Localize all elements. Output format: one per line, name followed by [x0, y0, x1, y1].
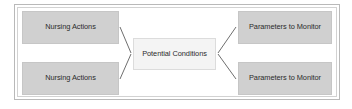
node-label: Parameters to Monitor [249, 23, 321, 31]
node-potential-conditions[interactable]: Potential Conditions [133, 38, 216, 70]
node-nursing-actions-top[interactable]: Nursing Actions [22, 11, 119, 44]
node-parameters-to-monitor-top[interactable]: Parameters to Monitor [238, 11, 332, 44]
connector-center-to-parameters-2 [218, 54, 236, 79]
node-label: Nursing Actions [45, 74, 96, 82]
node-label: Nursing Actions [45, 23, 96, 31]
node-label: Potential Conditions [142, 50, 207, 58]
diagram-canvas: Nursing Actions Nursing Actions Potentia… [0, 0, 352, 109]
connector-nursing-1-to-center [120, 27, 131, 53]
node-parameters-to-monitor-bottom[interactable]: Parameters to Monitor [238, 62, 332, 95]
diagram-page: Nursing Actions Nursing Actions Potentia… [0, 0, 352, 109]
node-nursing-actions-bottom[interactable]: Nursing Actions [22, 62, 119, 95]
connector-center-to-parameters-1 [218, 27, 236, 53]
connector-nursing-2-to-center [120, 54, 131, 79]
node-label: Parameters to Monitor [249, 74, 321, 82]
